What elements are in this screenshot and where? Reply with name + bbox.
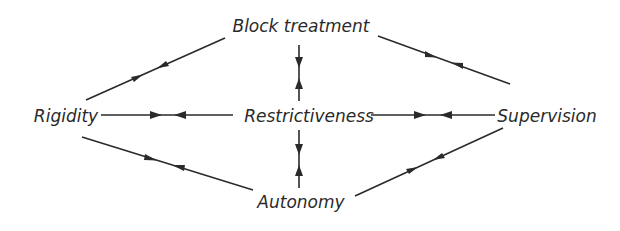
node-rigidity: Rigidity — [34, 106, 99, 126]
arrowhead-icon — [150, 111, 162, 119]
edge-rigidity-restrictiveness — [101, 111, 233, 119]
arrowhead-icon — [295, 165, 303, 176]
diagram-canvas: Block treatment Rigidity Restrictiveness… — [0, 0, 620, 231]
arrowhead-icon — [144, 154, 157, 161]
node-supervision: Supervision — [497, 106, 596, 126]
edge-block-treatment-restrictiveness — [295, 45, 303, 101]
arrowhead-icon — [433, 153, 445, 160]
node-autonomy: Autonomy — [256, 192, 345, 212]
edge-restrictiveness-supervision — [371, 111, 495, 119]
arrowhead-icon — [174, 111, 186, 119]
arrowhead-icon — [440, 111, 452, 119]
arrowhead-icon — [295, 78, 303, 89]
edge-block-treatment-supervision — [378, 36, 510, 84]
arrowhead-icon — [295, 144, 303, 155]
node-restrictiveness: Restrictiveness — [244, 106, 374, 126]
arrowhead-icon — [414, 111, 426, 119]
arrowhead-icon — [295, 57, 303, 68]
node-block-treatment: Block treatment — [232, 16, 370, 36]
diagram-svg: Block treatment Rigidity Restrictiveness… — [0, 0, 620, 231]
arrowhead-icon — [172, 165, 185, 171]
edge-rigidity-autonomy — [82, 137, 253, 190]
arrowhead-icon — [406, 167, 418, 174]
edge-restrictiveness-autonomy — [295, 130, 303, 188]
arrowhead-icon — [131, 75, 143, 83]
edge-rigidity-block-treatment — [86, 38, 225, 100]
edge-autonomy-supervision — [355, 128, 503, 196]
arrowhead-icon — [157, 61, 169, 68]
